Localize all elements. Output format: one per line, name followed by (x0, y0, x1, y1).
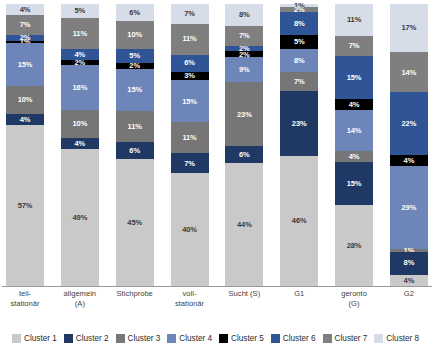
bar-group: 7%11%6%3%15%11%7%40% (171, 4, 209, 286)
bar-segment[interactable]: 15% (335, 162, 373, 205)
bar-segment-value-label: 4% (75, 51, 86, 59)
bar-segment-value-label: 5% (75, 7, 86, 15)
bar-segment[interactable]: 8% (225, 4, 263, 26)
legend-item[interactable]: Cluster 6 (271, 334, 316, 343)
bar-segment[interactable]: 8% (390, 252, 428, 275)
bar-segment[interactable]: 44% (225, 163, 263, 286)
bar-segment[interactable]: 15% (171, 80, 209, 122)
legend-item[interactable]: Cluster 2 (64, 334, 109, 343)
bar-segment[interactable]: 17% (390, 4, 428, 52)
bar-segment-value-label: 4% (349, 153, 360, 161)
bar-segment-value-label: 6% (184, 59, 195, 67)
bar-segment-value-label: 4% (20, 116, 31, 124)
bar-segment[interactable]: 6% (116, 4, 154, 21)
bar-segment[interactable]: 8% (280, 12, 318, 35)
stacked-bar[interactable]: 1%2%8%5%8%7%23%46% (280, 4, 318, 286)
legend-swatch-icon (323, 334, 332, 343)
bar-segment[interactable]: 4% (6, 114, 44, 125)
bar-group: 17%14%22%4%29%1%8%4% (390, 4, 428, 286)
stacked-bar[interactable]: 8%7%2%2%9%23%6%44% (225, 4, 263, 286)
bar-segment[interactable]: 7% (335, 36, 373, 56)
bar-segment[interactable]: 4% (61, 138, 99, 149)
bar-segment[interactable]: 7% (280, 72, 318, 92)
bar-segment[interactable]: 11% (335, 4, 373, 36)
bar-segment[interactable]: 7% (6, 15, 44, 35)
bar-segment[interactable]: 4% (390, 275, 428, 286)
stacked-bar[interactable]: 11%7%15%4%14%4%15%28% (335, 4, 373, 286)
bar-segment-value-label: 9% (239, 66, 250, 74)
bar-segment[interactable]: 15% (6, 43, 44, 85)
bar-segment[interactable]: 6% (171, 55, 209, 72)
bar-segment-value-label: 40% (182, 226, 197, 234)
bar-segment[interactable]: 23% (280, 91, 318, 156)
bar-segment-value-label: 6% (129, 9, 140, 17)
bar-segment-value-label: 6% (239, 151, 250, 159)
bar-segment[interactable]: 14% (390, 52, 428, 92)
bar-segment[interactable]: 23% (225, 82, 263, 146)
bar-segment[interactable]: 11% (116, 111, 154, 142)
stacked-bar[interactable]: 5%11%4%2%16%10%4%49% (61, 4, 99, 286)
legend-item[interactable]: Cluster 7 (323, 334, 368, 343)
x-axis-tick-label: teil- stationär (6, 289, 44, 323)
bar-segment-value-label: 57% (18, 202, 33, 210)
bar-segment-value-label: 16% (72, 84, 87, 92)
bar-segment-value-label: 3% (184, 72, 195, 80)
stacked-bar[interactable]: 17%14%22%4%29%1%8%4% (390, 4, 428, 286)
bar-segment[interactable]: 49% (61, 149, 99, 286)
bar-segment[interactable]: 45% (116, 159, 154, 286)
bar-segment[interactable]: 4% (335, 99, 373, 111)
legend-label: Cluster 3 (128, 334, 161, 343)
bar-segment[interactable]: 10% (61, 110, 99, 138)
bar-segment[interactable]: 29% (390, 166, 428, 249)
bar-segment[interactable]: 22% (390, 92, 428, 155)
bar-segment[interactable]: 5% (280, 35, 318, 49)
bar-segment-value-label: 8% (404, 259, 415, 267)
bar-segment[interactable]: 3% (171, 72, 209, 80)
bar-segment[interactable]: 11% (61, 18, 99, 49)
bar-segment[interactable]: 7% (225, 26, 263, 46)
bar-segment[interactable]: 11% (171, 24, 209, 55)
legend-item[interactable]: Cluster 5 (219, 334, 264, 343)
bar-group: 1%2%8%5%8%7%23%46% (280, 4, 318, 286)
bar-segment[interactable]: 6% (116, 142, 154, 159)
bar-segment[interactable]: 16% (61, 65, 99, 110)
bar-segment-value-label: 7% (184, 10, 195, 18)
bar-segment[interactable]: 4% (335, 151, 373, 163)
bar-segment[interactable]: 57% (6, 125, 44, 286)
bar-segment[interactable]: 15% (116, 69, 154, 111)
bar-segment[interactable]: 15% (335, 56, 373, 99)
bar-segment[interactable]: 7% (171, 4, 209, 24)
legend-item[interactable]: Cluster 8 (374, 334, 419, 343)
legend-label: Cluster 6 (283, 334, 316, 343)
bar-group: 5%11%4%2%16%10%4%49% (61, 4, 99, 286)
bar-segment[interactable]: 10% (116, 21, 154, 49)
bar-segment[interactable]: 7% (171, 153, 209, 173)
legend-item[interactable]: Cluster 3 (116, 334, 161, 343)
bar-segment-value-label: 5% (294, 38, 305, 46)
bar-segment-value-label: 28% (347, 242, 362, 250)
x-axis-tick-label: Sucht (S) (225, 289, 263, 323)
bar-segment[interactable]: 14% (335, 110, 373, 150)
bar-segment[interactable]: 9% (225, 57, 263, 82)
bar-segment-value-label: 4% (20, 6, 31, 14)
bar-segment[interactable]: 4% (390, 155, 428, 166)
bar-segment[interactable]: 4% (6, 4, 44, 15)
bar-segment-value-label: 17% (402, 24, 417, 32)
bar-segment[interactable]: 28% (335, 205, 373, 286)
bar-segment-value-label: 15% (18, 61, 33, 69)
bar-segment-value-label: 15% (127, 86, 142, 94)
bar-segment[interactable]: 8% (280, 49, 318, 72)
bar-segment[interactable]: 5% (61, 4, 99, 18)
bar-segment[interactable]: 46% (280, 156, 318, 286)
stacked-bar[interactable]: 7%11%6%3%15%11%7%40% (171, 4, 209, 286)
bar-segment[interactable]: 40% (171, 173, 209, 286)
legend-item[interactable]: Cluster 1 (12, 334, 57, 343)
bar-segment-value-label: 29% (402, 204, 417, 212)
bar-segment[interactable]: 6% (225, 146, 263, 163)
bar-segment[interactable]: 10% (6, 86, 44, 114)
stacked-bar[interactable]: 6%10%5%2%15%11%6%45% (116, 4, 154, 286)
bar-segment[interactable]: 11% (171, 122, 209, 153)
legend-item[interactable]: Cluster 4 (167, 334, 212, 343)
bar-segment-value-label: 4% (404, 277, 415, 285)
stacked-bar[interactable]: 4%7%2%1%15%10%4%57% (6, 4, 44, 286)
